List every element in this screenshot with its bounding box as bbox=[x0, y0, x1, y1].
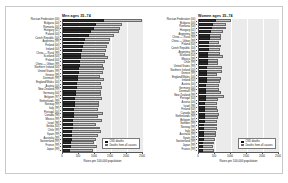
bar-cvd-deaths bbox=[199, 98, 206, 101]
bar-cvd-deaths bbox=[199, 41, 209, 44]
bar-cvd-deaths bbox=[63, 115, 74, 118]
bar-cvd-deaths bbox=[199, 91, 206, 94]
bar-cvd-deaths bbox=[199, 19, 216, 22]
legend-women: CVD deaths Deaths from all causes bbox=[238, 138, 276, 149]
gridline bbox=[127, 19, 128, 152]
bar-cvd-deaths bbox=[63, 145, 71, 148]
bar-cvd-deaths bbox=[199, 102, 205, 105]
bar-cvd-deaths bbox=[199, 113, 205, 116]
bar-cvd-deaths bbox=[63, 119, 73, 122]
bar-cvd-deaths bbox=[199, 134, 204, 137]
bar-cvd-deaths bbox=[199, 145, 203, 148]
x-tick-label: 1000 bbox=[91, 155, 97, 158]
x-axis-title-women: Rates per 100,000 population bbox=[198, 159, 279, 163]
bar-cvd-deaths bbox=[199, 106, 205, 109]
x-tick-label: 2500 bbox=[275, 155, 281, 158]
bar-cvd-deaths bbox=[63, 101, 75, 104]
x-tick-label: 500 bbox=[76, 155, 80, 158]
bar-cvd-deaths bbox=[63, 112, 74, 115]
bar-cvd-deaths bbox=[63, 19, 104, 22]
bar-cvd-deaths bbox=[199, 124, 204, 127]
legend-item-all-causes: Deaths from all causes bbox=[241, 144, 273, 147]
bar-cvd-deaths bbox=[199, 55, 208, 58]
bar-cvd-deaths bbox=[199, 138, 204, 141]
bar-cvd-deaths bbox=[63, 53, 81, 56]
x-tick-label: 1500 bbox=[243, 155, 249, 158]
bar-cvd-deaths bbox=[199, 131, 204, 134]
bar-cvd-deaths bbox=[199, 116, 205, 119]
legend-item-all-causes: Deaths from all causes bbox=[105, 144, 137, 147]
bar-cvd-deaths bbox=[63, 27, 94, 30]
figure-frame: Men ages 35–74 Russian Federation (00)Bu… bbox=[5, 6, 283, 174]
bar-cvd-deaths bbox=[63, 38, 85, 41]
bar-cvd-deaths bbox=[63, 138, 72, 141]
bar-cvd-deaths bbox=[199, 109, 205, 112]
category-label: Japan (99) bbox=[47, 149, 60, 152]
bar-cvd-deaths bbox=[63, 64, 80, 67]
bar-cvd-deaths bbox=[63, 86, 77, 89]
bar-cvd-deaths bbox=[199, 70, 207, 73]
x-axis-title-men: Rates per 100,000 population bbox=[62, 159, 143, 163]
bar-cvd-deaths bbox=[63, 90, 76, 93]
legend-swatch-cvd-icon bbox=[241, 141, 244, 143]
x-tick-label: 2000 bbox=[123, 155, 129, 158]
x-axis-women: 05001000150020002500 bbox=[198, 152, 279, 157]
bar-cvd-deaths bbox=[63, 34, 89, 37]
panel-title-men: Men ages 35–74 bbox=[62, 14, 91, 18]
bar-cvd-deaths bbox=[63, 75, 78, 78]
bar-cvd-deaths bbox=[199, 37, 210, 40]
legend-swatch-cvd-icon bbox=[105, 141, 108, 143]
bar-cvd-deaths bbox=[63, 141, 71, 144]
bar-cvd-deaths bbox=[199, 45, 209, 48]
category-labels-women: Russian Federation (00)Bulgaria (00)Roma… bbox=[150, 19, 197, 152]
bar-cvd-deaths bbox=[63, 78, 78, 81]
bar-cvd-deaths bbox=[63, 108, 74, 111]
legend-label-all-causes: Deaths from all causes bbox=[109, 144, 136, 147]
panel-title-women: Women ages 35–74 bbox=[198, 14, 233, 18]
bar-cvd-deaths bbox=[63, 60, 80, 63]
bar-cvd-deaths bbox=[63, 71, 79, 74]
panel-women: Women ages 35–74 Russian Federation (00)… bbox=[150, 14, 281, 169]
x-axis-men: 05001000150020002500 bbox=[62, 152, 143, 157]
legend-men: CVD deaths Deaths from all causes bbox=[102, 138, 140, 149]
x-tick-label: 0 bbox=[61, 155, 63, 158]
legend-swatch-all-causes-icon bbox=[241, 144, 244, 146]
bar-cvd-deaths bbox=[199, 34, 210, 37]
gridline bbox=[111, 19, 112, 152]
bar-cvd-deaths bbox=[63, 130, 72, 133]
bar-cvd-deaths bbox=[63, 67, 79, 70]
x-tick-label: 0 bbox=[197, 155, 199, 158]
bar-cvd-deaths bbox=[199, 142, 203, 145]
bar-cvd-deaths bbox=[63, 82, 77, 85]
gridline bbox=[263, 19, 264, 152]
bar-cvd-deaths bbox=[199, 62, 208, 65]
legend-swatch-all-causes-icon bbox=[105, 144, 108, 146]
bar-cvd-deaths bbox=[199, 27, 212, 30]
bar-cvd-deaths bbox=[63, 45, 83, 48]
bar-cvd-deaths bbox=[199, 52, 208, 55]
plot-area-women bbox=[198, 19, 279, 152]
bar-cvd-deaths bbox=[199, 73, 207, 76]
gridline bbox=[231, 19, 232, 152]
bar-cvd-deaths bbox=[63, 123, 73, 126]
x-tick-label: 1000 bbox=[227, 155, 233, 158]
category-labels-men: Russian Federation (00)Bulgaria (00)Roma… bbox=[14, 19, 61, 152]
x-tick-label: 2000 bbox=[259, 155, 265, 158]
bar-cvd-deaths bbox=[199, 88, 206, 91]
bar-cvd-deaths bbox=[199, 30, 211, 33]
figure-container: Men ages 35–74 Russian Federation (00)Bu… bbox=[0, 0, 288, 183]
legend-label-all-causes: Deaths from all causes bbox=[245, 144, 272, 147]
x-tick-label: 1500 bbox=[107, 155, 113, 158]
bar-cvd-deaths bbox=[63, 42, 84, 45]
category-label: France (99) bbox=[182, 149, 196, 152]
bar-cvd-deaths bbox=[199, 84, 206, 87]
bar-cvd-deaths bbox=[63, 127, 73, 130]
bar-cvd-deaths bbox=[63, 104, 75, 107]
bar-cvd-deaths bbox=[199, 23, 213, 26]
bar-cvd-deaths bbox=[199, 48, 209, 51]
bar-cvd-deaths bbox=[199, 80, 207, 83]
bar-cvd-deaths bbox=[63, 97, 75, 100]
bar-cvd-deaths bbox=[63, 93, 76, 96]
bar-cvd-deaths bbox=[63, 49, 82, 52]
x-tick-label: 500 bbox=[212, 155, 216, 158]
